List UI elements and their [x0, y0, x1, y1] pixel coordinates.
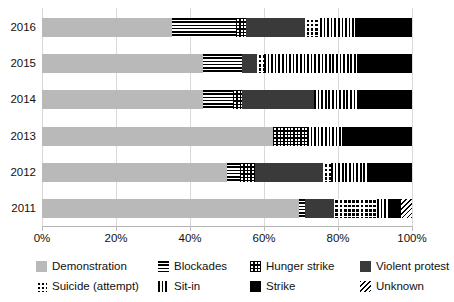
- bar-segment-blockades-2016: [172, 18, 237, 37]
- y-axis-label-2012: 2012: [0, 163, 36, 182]
- bar-segment-blockades-2015: [203, 54, 242, 73]
- bar-segment-strike-2015: [357, 54, 413, 73]
- legend-swatch-icon: [158, 261, 169, 272]
- gridline-40: [190, 8, 191, 226]
- bar-segment-sit-in-2013: [307, 127, 342, 146]
- gridline-60: [264, 8, 265, 226]
- legend-item-sit-in[interactable]: Sit-in: [158, 280, 250, 292]
- legend-item-suicide-attempt[interactable]: Suicide (attempt): [36, 280, 158, 292]
- legend-swatch-icon: [250, 281, 261, 292]
- x-axis-line: [42, 226, 412, 227]
- legend-label: Suicide (attempt): [52, 280, 139, 292]
- bar-segment-strike-2013: [342, 127, 412, 146]
- legend-label: Sit-in: [174, 280, 200, 292]
- bar-segment-strike-2016: [355, 18, 412, 37]
- y-axis-label-2013: 2013: [0, 127, 36, 146]
- bar-segment-demonstration-2013: [42, 127, 273, 146]
- bar-segment-hunger-strike-2014: [233, 90, 242, 109]
- bar-segment-demonstration-2015: [42, 54, 203, 73]
- bar-segment-sit-in-2015: [264, 54, 357, 73]
- bar-row-2014: 2014: [42, 90, 412, 109]
- legend-item-hunger-strike[interactable]: Hunger strike: [250, 260, 360, 272]
- legend-swatch-icon: [360, 281, 371, 292]
- x-tick-100: [412, 226, 413, 231]
- bar-segment-sit-in-2011: [377, 199, 388, 218]
- legend-swatch-icon: [250, 261, 261, 272]
- bar-segment-demonstration-2016: [42, 18, 172, 37]
- gridline-0: [42, 8, 43, 226]
- bar-segment-blockades-2012: [227, 163, 240, 182]
- legend-label: Blockades: [174, 260, 227, 272]
- legend-item-violent-protest[interactable]: Violent protest: [360, 260, 454, 272]
- bar-row-2015: 2015: [42, 54, 412, 73]
- y-axis-label-2015: 2015: [0, 54, 36, 73]
- bar-segment-demonstration-2011: [42, 199, 299, 218]
- legend-item-demonstration[interactable]: Demonstration: [36, 260, 158, 272]
- bar-segment-violent-protest-2014: [242, 90, 314, 109]
- legend-swatch-icon: [158, 281, 169, 292]
- legend-item-unknown[interactable]: Unknown: [360, 280, 454, 292]
- x-tick-label-20: 20%: [92, 232, 140, 244]
- legend-item-strike[interactable]: Strike: [250, 280, 360, 292]
- x-tick-label-40: 40%: [166, 232, 214, 244]
- bar-segment-suicide-attempt-2015: [257, 54, 264, 73]
- bar-segment-suicide-attempt-2011: [334, 199, 377, 218]
- legend-label: Demonstration: [52, 260, 127, 272]
- gridline-100: [412, 8, 413, 226]
- x-tick-60: [264, 226, 265, 231]
- x-tick-label-80: 80%: [314, 232, 362, 244]
- bar-segment-demonstration-2014: [42, 90, 203, 109]
- x-tick-label-0: 0%: [18, 232, 66, 244]
- legend-swatch-icon: [36, 261, 47, 272]
- bar-segment-strike-2014: [358, 90, 412, 109]
- bar-segment-violent-protest-2012: [255, 163, 323, 182]
- bar-segment-suicide-attempt-2016: [305, 18, 320, 37]
- legend-swatch-icon: [360, 261, 371, 272]
- x-tick-20: [116, 226, 117, 231]
- bar-segment-demonstration-2012: [42, 163, 227, 182]
- plot-area: 201620152014201320122011: [42, 8, 412, 226]
- x-tick-80: [338, 226, 339, 231]
- legend-swatch-icon: [36, 281, 47, 292]
- bar-segment-hunger-strike-2016: [236, 18, 245, 37]
- bar-segment-sit-in-2014: [314, 90, 358, 109]
- bar-row-2012: 2012: [42, 163, 412, 182]
- bar-segment-hunger-strike-2012: [240, 163, 255, 182]
- y-axis-label-2016: 2016: [0, 18, 36, 37]
- y-axis-label-2014: 2014: [0, 90, 36, 109]
- bar-row-2013: 2013: [42, 127, 412, 146]
- x-tick-40: [190, 226, 191, 231]
- bar-segment-unknown-2011: [401, 199, 412, 218]
- gridline-80: [338, 8, 339, 226]
- bar-segment-suicide-attempt-2012: [323, 163, 330, 182]
- legend-label: Strike: [266, 280, 295, 292]
- bar-row-2011: 2011: [42, 199, 412, 218]
- bar-segment-strike-2011: [388, 199, 401, 218]
- x-tick-label-60: 60%: [240, 232, 288, 244]
- bar-segment-violent-protest-2015: [242, 54, 257, 73]
- bar-segment-sit-in-2016: [320, 18, 355, 37]
- bar-row-2016: 2016: [42, 18, 412, 37]
- x-tick-label-100: 100%: [388, 232, 436, 244]
- bar-segment-blockades-2014: [203, 90, 233, 109]
- bar-segment-violent-protest-2016: [246, 18, 305, 37]
- bar-segment-hunger-strike-2013: [273, 127, 306, 146]
- gridline-20: [116, 8, 117, 226]
- chart-legend: DemonstrationBlockadesHunger strikeViole…: [36, 256, 432, 296]
- y-axis-label-2011: 2011: [0, 199, 36, 218]
- legend-label: Unknown: [376, 280, 424, 292]
- bar-segment-violent-protest-2011: [305, 199, 335, 218]
- x-tick-0: [42, 226, 43, 231]
- legend-label: Violent protest: [376, 260, 449, 272]
- legend-item-blockades[interactable]: Blockades: [158, 260, 250, 272]
- bar-segment-strike-2012: [369, 163, 412, 182]
- bar-segment-sit-in-2012: [331, 163, 370, 182]
- legend-label: Hunger strike: [266, 260, 334, 272]
